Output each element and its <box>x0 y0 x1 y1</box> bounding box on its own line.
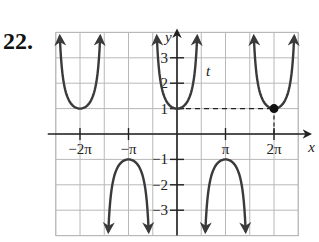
y-tick-label: −1 <box>152 151 168 167</box>
y-tick-label: 3 <box>161 50 169 66</box>
highlighted-point <box>270 104 279 113</box>
x-tick-label: −π <box>120 141 136 157</box>
curve-label: t <box>206 63 211 79</box>
x-tick-label: 2π <box>266 141 282 157</box>
x-tick-label: π <box>222 141 230 157</box>
x-axis-label: x <box>307 139 315 155</box>
y-tick-label: −3 <box>152 202 168 218</box>
y-tick-label: −2 <box>152 177 168 193</box>
x-tick-label: −2π <box>68 141 92 157</box>
y-axis-label: y <box>163 29 172 45</box>
secant-graph: −2π−ππ2π321−1−2−3xyt <box>0 0 319 242</box>
